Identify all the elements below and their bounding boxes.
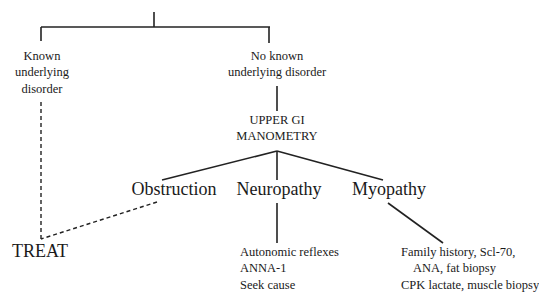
node-text: Autonomic reflexes — [240, 244, 339, 260]
node-text: CPK lactate, muscle biopsy — [401, 277, 539, 293]
node-text: Myopathy — [352, 179, 426, 199]
node-text: underlying disorder — [222, 64, 332, 80]
node-text: underlying — [4, 64, 80, 80]
edge-manometry-obstruction — [162, 151, 277, 180]
node-text: disorder — [4, 81, 80, 97]
node-no-known-underlying-disorder: No known underlying disorder — [222, 48, 332, 81]
node-text: MANOMETRY — [232, 128, 322, 144]
node-text: ANNA-1 — [240, 260, 339, 276]
node-myopathy: Myopathy — [347, 178, 431, 201]
node-text: Neuropathy — [237, 179, 322, 199]
node-text: UPPER GI — [232, 112, 322, 128]
node-obstruction: Obstruction — [124, 178, 224, 201]
node-myopathy-workup: Family history, Scl-70, ANA, fat biopsy … — [401, 244, 539, 293]
edge-myopathy-workup — [388, 203, 443, 243]
node-text: Obstruction — [132, 179, 217, 199]
node-text: Seek cause — [240, 277, 339, 293]
node-treat: TREAT — [10, 240, 70, 263]
node-neuropathy: Neuropathy — [236, 178, 322, 201]
edge-obstruction-treat — [41, 202, 157, 239]
node-neuropathy-workup: Autonomic reflexes ANNA-1 Seek cause — [240, 244, 339, 293]
node-text: Family history, Scl-70, — [401, 244, 539, 260]
node-upper-gi-manometry: UPPER GI MANOMETRY — [232, 112, 322, 145]
node-known-underlying-disorder: Known underlying disorder — [4, 48, 80, 97]
node-text: Known — [4, 48, 80, 64]
edge-manometry-myopathy — [277, 151, 383, 180]
node-text: ANA, fat biopsy — [401, 260, 539, 276]
node-text: TREAT — [12, 241, 68, 261]
node-text: No known — [222, 48, 332, 64]
